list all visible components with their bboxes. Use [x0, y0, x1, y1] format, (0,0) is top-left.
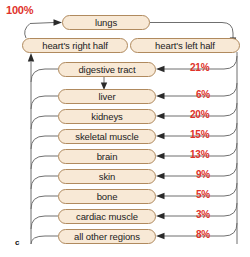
- branch-left-brain: [31, 156, 58, 169]
- circulatory-flow-diagram: 100% c lungs heart's right half heart's …: [0, 0, 250, 257]
- branch-left-bone: [31, 196, 58, 209]
- arrow-into-skeletal: [156, 133, 165, 139]
- arrow-into-skin: [156, 173, 165, 179]
- pct-kidneys: 20%: [190, 109, 209, 120]
- pct-skin: 9%: [196, 169, 210, 180]
- node-digestive-tract[interactable]: digestive tract: [58, 62, 156, 77]
- arrow-into-heart-right: [28, 53, 34, 62]
- branch-left-digestive: [31, 69, 58, 82]
- node-brain[interactable]: brain: [58, 149, 156, 164]
- branch-left-skin: [31, 176, 58, 189]
- pct-skeletal-muscle: 15%: [190, 129, 209, 140]
- node-liver[interactable]: liver: [58, 89, 156, 104]
- node-cardiac-muscle[interactable]: cardiac muscle: [58, 209, 156, 224]
- panel-label: c: [15, 238, 19, 247]
- arrow-into-other: [156, 233, 165, 239]
- pct-bone: 5%: [196, 189, 210, 200]
- total-output-label: 100%: [6, 4, 33, 16]
- branch-left-liver: [31, 96, 58, 109]
- arrow-into-cardiac: [156, 213, 165, 219]
- arrow-into-liver: [156, 93, 165, 99]
- node-all-other-regions[interactable]: all other regions: [58, 229, 156, 244]
- heart-right-to-lungs-line: [25, 23, 54, 39]
- branch-left-kidneys: [31, 116, 58, 129]
- node-skin[interactable]: skin: [58, 169, 156, 184]
- node-heart-left-half[interactable]: heart's left half: [130, 38, 240, 53]
- pct-all-other-regions: 8%: [196, 229, 210, 240]
- pct-liver: 6%: [196, 89, 210, 100]
- node-heart-right-half[interactable]: heart's right half: [22, 38, 128, 53]
- node-skeletal-muscle[interactable]: skeletal muscle: [58, 129, 156, 144]
- pct-brain: 13%: [190, 149, 209, 160]
- pct-cardiac-muscle: 3%: [196, 209, 210, 220]
- branch-left-cardiac: [31, 216, 58, 229]
- node-lungs[interactable]: lungs: [62, 15, 150, 30]
- pct-digestive-tract: 21%: [190, 62, 209, 73]
- arrow-into-lungs: [54, 19, 63, 25]
- arrow-into-kidneys: [156, 113, 165, 119]
- branch-left-other: [31, 236, 58, 244]
- node-bone[interactable]: bone: [58, 189, 156, 204]
- arrow-into-brain: [156, 153, 165, 159]
- arrow-into-digestive: [156, 66, 165, 72]
- arrow-into-bone: [156, 193, 165, 199]
- branch-left-skeletal: [31, 136, 58, 149]
- node-kidneys[interactable]: kidneys: [58, 109, 156, 124]
